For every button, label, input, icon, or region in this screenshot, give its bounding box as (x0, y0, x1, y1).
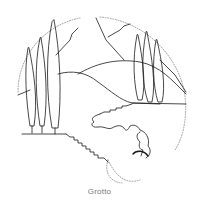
mountains (56, 18, 186, 92)
cypress-trees-right (134, 32, 164, 102)
grotto-foliage (92, 114, 150, 158)
stepped-path (66, 104, 132, 162)
illustration-caption: Grotto (0, 187, 199, 196)
grotto-illustration (0, 0, 199, 185)
hills (18, 61, 186, 104)
cypress-trees-left (22, 20, 66, 134)
